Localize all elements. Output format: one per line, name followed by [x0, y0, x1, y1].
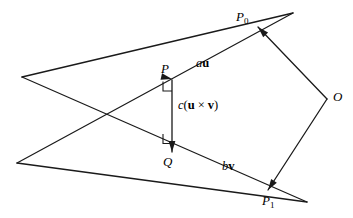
line-group — [17, 13, 307, 202]
point-label-p1-letter: P — [262, 193, 270, 208]
vector-label-bv: bv — [222, 160, 235, 173]
upper-ray — [22, 13, 293, 77]
cross-product-icon: × — [195, 98, 208, 112]
right-angle-group — [163, 82, 172, 144]
vector-label-au-vector: u — [202, 56, 209, 70]
arrow-into-p1 — [265, 179, 277, 192]
diagram-canvas — [0, 0, 353, 218]
vector-label-cuxv-close-paren: ) — [214, 98, 218, 112]
vector-label-au: au — [196, 57, 209, 70]
o-to-p0-segment — [258, 27, 327, 99]
arrow-into-q — [169, 141, 176, 152]
point-label-p1-subscript: 1 — [270, 200, 275, 210]
point-label-o: O — [333, 90, 342, 103]
point-label-p0: P0 — [236, 10, 248, 23]
point-label-o-letter: O — [333, 89, 342, 104]
point-label-p: P — [161, 62, 169, 75]
vector-label-bv-vector: v — [228, 159, 234, 173]
point-label-q: Q — [163, 155, 172, 168]
o-to-p1-segment — [268, 99, 327, 190]
point-label-p1: P1 — [262, 194, 274, 207]
vector-diagram-figure: P0 P1 P Q O au c(u×v) bv — [0, 0, 353, 218]
point-label-q-letter: Q — [163, 154, 172, 169]
vector-label-cuxv-vector-u: u — [188, 98, 195, 112]
point-label-p0-subscript: 0 — [244, 16, 249, 26]
o-vertex-group — [258, 27, 327, 190]
crossing-line-ascending — [17, 13, 293, 163]
point-label-p0-letter: P — [236, 9, 244, 24]
vector-label-cuxv: c(u×v) — [178, 99, 218, 112]
point-label-p-letter: P — [161, 61, 169, 76]
